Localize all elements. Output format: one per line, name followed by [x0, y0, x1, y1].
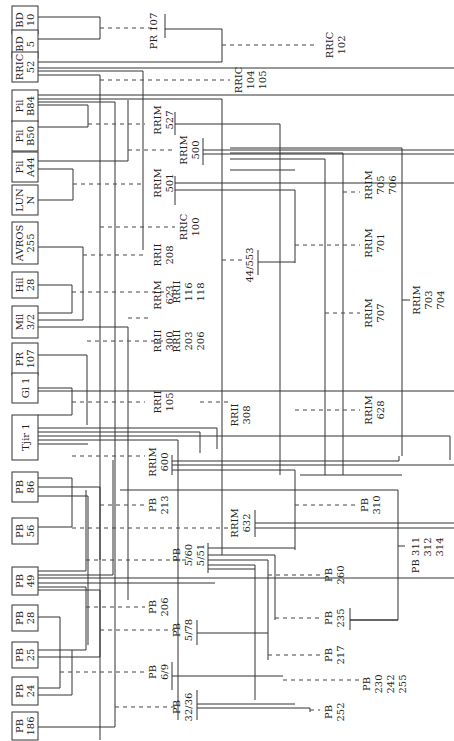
- offspring-label-pb217: PB: [323, 648, 334, 662]
- clone-label: 255: [25, 233, 36, 252]
- clone-label: RRIC: [14, 53, 25, 80]
- offspring-label-rric104: RRIC: [233, 66, 244, 93]
- offspring-label-pb310: PB: [359, 498, 370, 512]
- clone-label: 3/2: [25, 314, 36, 330]
- offspring-label-pr107: PR 107: [148, 13, 159, 50]
- clone-label: 10: [25, 14, 36, 27]
- svg-text:705: 705: [375, 175, 386, 194]
- offspring-label-rrim632: RRIM: [229, 508, 240, 537]
- offspring-label-pb3236: PB: [171, 700, 182, 714]
- offspring-label-rrii208: RRII: [152, 243, 163, 266]
- svg-text:105: 105: [257, 70, 268, 89]
- svg-text:632: 632: [241, 513, 252, 532]
- svg-text:308: 308: [241, 405, 252, 424]
- clone-label: PB: [14, 574, 25, 588]
- clone-label: N: [25, 195, 36, 204]
- clone-label: 25: [25, 649, 36, 662]
- clone-label: 24: [25, 685, 36, 698]
- offspring-label-rrim628: RRIM: [363, 395, 374, 424]
- clone-label: Tjir 1: [20, 423, 31, 450]
- offspring-label-rrim707: RRIM: [363, 298, 374, 327]
- svg-text:116: 116: [183, 282, 194, 301]
- clone-label: 107: [25, 349, 36, 368]
- svg-text:706: 706: [387, 175, 398, 194]
- offspring-label-rrii300: RRII: [152, 329, 163, 352]
- svg-text:312: 312: [422, 537, 433, 556]
- dashed-connectors: [60, 28, 360, 710]
- svg-text:500: 500: [190, 140, 201, 159]
- offspring-label-pb260: PB: [323, 568, 334, 582]
- clone-label: 56: [25, 525, 36, 538]
- offspring-labels: PR 107 RRIC 102 RRIC 104 105 RRIM 527 RR…: [147, 13, 446, 722]
- svg-text:255: 255: [397, 674, 408, 693]
- offspring-label-rrim623: RRIM: [152, 280, 163, 309]
- offspring-label-rrii116: RRII: [171, 280, 182, 303]
- offspring-label-pb311: PB 311: [410, 537, 421, 573]
- offspring-label-rrim501: RRIM: [152, 168, 163, 197]
- svg-text:252: 252: [335, 702, 346, 721]
- svg-text:704: 704: [435, 290, 446, 309]
- svg-text:100: 100: [190, 217, 201, 236]
- svg-text:104: 104: [245, 70, 256, 89]
- svg-text:707: 707: [375, 303, 386, 322]
- clone-label: 86: [25, 481, 36, 494]
- clone-label: 49: [25, 575, 36, 588]
- offspring-label-rrii203: RRII: [171, 329, 182, 352]
- svg-text:213: 213: [159, 495, 170, 514]
- offspring-label-pb252: PB: [323, 705, 334, 719]
- svg-text:701: 701: [375, 233, 386, 252]
- clone-label: B84: [25, 96, 36, 116]
- svg-text:628: 628: [375, 400, 386, 419]
- offspring-label-rrim500: RRIM: [178, 135, 189, 164]
- svg-text:242: 242: [385, 674, 396, 693]
- svg-text:206: 206: [159, 597, 170, 616]
- clone-label: Hil: [14, 277, 25, 292]
- svg-text:32/36: 32/36: [183, 693, 194, 722]
- svg-text:118: 118: [195, 282, 206, 301]
- clone-label: PB: [14, 719, 25, 733]
- clone-label: AVROS: [14, 225, 25, 263]
- clone-label: PB: [14, 648, 25, 662]
- svg-text:230: 230: [373, 674, 384, 693]
- clone-label: Pil: [14, 129, 25, 142]
- offspring-label-rrim705: RRIM: [363, 170, 374, 199]
- clone-label: Pil: [14, 160, 25, 173]
- offspring-label-rrim703: RRIM: [411, 285, 422, 314]
- clone-label: 28: [25, 612, 36, 625]
- offspring-label-pb235: PB: [323, 611, 334, 625]
- svg-text:5/51: 5/51: [195, 544, 206, 566]
- svg-text:217: 217: [335, 645, 346, 664]
- clone-label: 52: [25, 61, 36, 74]
- offspring-label-rrim701: RRIM: [363, 228, 374, 257]
- svg-text:527: 527: [164, 110, 175, 129]
- offspring-label-rric102: RRIC: [324, 31, 335, 58]
- clone-label: 186: [25, 716, 36, 735]
- svg-text:5/78: 5/78: [183, 619, 194, 641]
- svg-text:5/60: 5/60: [183, 544, 194, 566]
- svg-text:203: 203: [183, 331, 194, 350]
- svg-text:105: 105: [164, 392, 175, 411]
- offspring-label-rrim600: RRIM: [147, 447, 158, 476]
- clone-label: LUN: [14, 188, 25, 212]
- clone-label: BD: [14, 36, 25, 51]
- svg-text:208: 208: [164, 245, 175, 264]
- clone-label: PR: [14, 351, 25, 366]
- svg-text:314: 314: [434, 537, 445, 556]
- svg-text:6/9: 6/9: [159, 664, 170, 680]
- clone-label: A44: [25, 157, 36, 178]
- offspring-label-pb69: PB: [147, 665, 158, 679]
- clone-label: 28: [25, 279, 36, 292]
- clone-label: Gl 1: [20, 378, 31, 399]
- offspring-label-pb230: PB: [361, 677, 372, 691]
- clone-label: B50: [25, 126, 36, 146]
- offspring-label-44-553: 44/553: [244, 247, 255, 282]
- offspring-label-rric100: RRIC: [178, 213, 189, 240]
- clone-label: Mil: [14, 314, 25, 331]
- svg-text:600: 600: [159, 452, 170, 471]
- offspring-label-pb206: PB: [147, 600, 158, 614]
- offspring-label-rrim527: RRIM: [152, 105, 163, 134]
- svg-text:703: 703: [423, 290, 434, 309]
- clone-label: PB: [14, 480, 25, 494]
- offspring-label-pb560: PB: [171, 548, 182, 562]
- svg-text:501: 501: [164, 173, 175, 192]
